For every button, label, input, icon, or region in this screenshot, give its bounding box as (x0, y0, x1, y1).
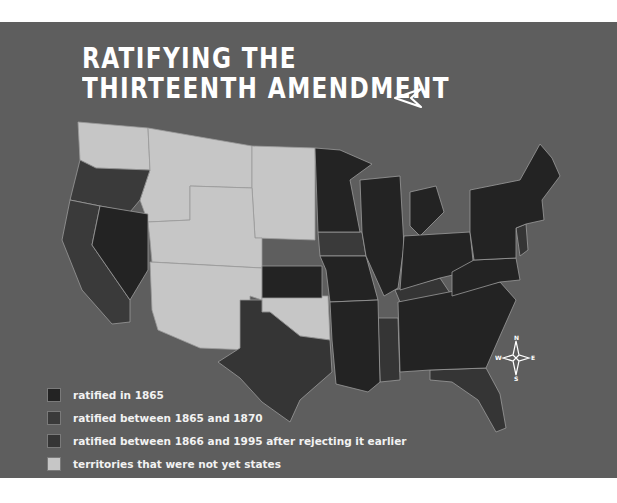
legend-label: ratified in 1865 (73, 389, 164, 401)
legend-label: territories that were not yet states (73, 458, 281, 470)
svg-text:S: S (514, 375, 518, 381)
legend-swatch (47, 457, 61, 471)
legend-label: ratified between 1866 and 1995 after rej… (73, 435, 406, 447)
legend-item-1865: ratified in 1865 (47, 383, 406, 406)
legend-item-after-rejecting: ratified between 1866 and 1995 after rej… (47, 429, 406, 452)
state-mississippi (378, 318, 400, 382)
state-iowa (318, 232, 366, 256)
state-delaware-nj (516, 224, 528, 256)
legend: ratified in 1865 ratified between 1865 a… (47, 383, 406, 475)
legend-label: ratified between 1865 and 1870 (73, 412, 263, 424)
legend-item-territories: territories that were not yet states (47, 452, 406, 475)
svg-text:E: E (531, 354, 535, 361)
legend-swatch (47, 434, 61, 448)
svg-text:W: W (495, 354, 502, 361)
state-washington (78, 122, 150, 170)
compass-rose-icon: N S E W (495, 335, 537, 381)
state-michigan (410, 186, 444, 236)
legend-swatch (47, 411, 61, 425)
territory-dakotas (252, 146, 315, 240)
svg-text:N: N (514, 335, 519, 341)
state-arkansas-louisiana (330, 300, 380, 392)
legend-item-1865-1870: ratified between 1865 and 1870 (47, 406, 406, 429)
state-kansas (262, 266, 322, 298)
legend-swatch (47, 388, 61, 402)
state-northeast (470, 144, 560, 260)
